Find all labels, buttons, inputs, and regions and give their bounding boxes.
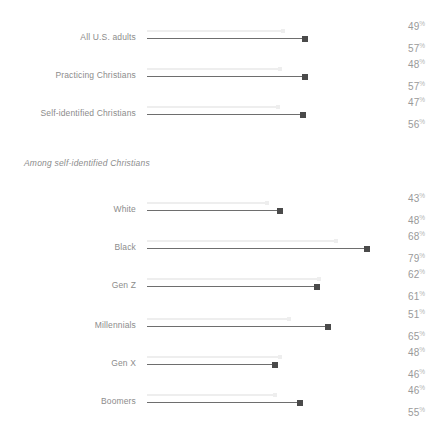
light-series-marker bbox=[334, 239, 338, 243]
row-label: Black bbox=[0, 242, 136, 252]
value-number: 46 bbox=[408, 385, 419, 396]
percent-symbol: % bbox=[419, 290, 425, 297]
dark-series-marker bbox=[314, 284, 320, 290]
percent-symbol: % bbox=[419, 192, 425, 199]
value-number: 61 bbox=[408, 291, 419, 302]
value-number: 55 bbox=[408, 407, 419, 418]
light-series-marker bbox=[278, 67, 282, 71]
value-label-light: 48% bbox=[381, 58, 425, 70]
dark-series-marker bbox=[300, 112, 306, 118]
light-series-line bbox=[147, 356, 280, 358]
value-number: 48 bbox=[408, 347, 419, 358]
row-label: White bbox=[0, 204, 136, 214]
dark-series-marker bbox=[325, 324, 331, 330]
value-label-dark: 57% bbox=[381, 42, 425, 54]
value-number: 56 bbox=[408, 119, 419, 130]
group-subtitle: Among self-identified Christians bbox=[24, 158, 150, 168]
value-label-light: 46% bbox=[381, 384, 425, 396]
percent-symbol: % bbox=[419, 368, 425, 375]
light-series-line bbox=[147, 240, 336, 242]
chart-row: Gen Z62%61% bbox=[0, 266, 431, 306]
value-number: 43 bbox=[408, 193, 419, 204]
dark-series-marker bbox=[302, 74, 308, 80]
value-number: 46 bbox=[408, 369, 419, 380]
value-number: 57 bbox=[408, 81, 419, 92]
percent-symbol: % bbox=[419, 58, 425, 65]
chart-row: Boomers46%55% bbox=[0, 382, 431, 422]
light-series-line bbox=[147, 202, 267, 204]
light-series-marker bbox=[281, 29, 285, 33]
percent-symbol: % bbox=[419, 330, 425, 337]
dark-series-line bbox=[147, 114, 303, 115]
percent-symbol: % bbox=[419, 118, 425, 125]
light-series-line bbox=[147, 318, 289, 320]
light-series-marker bbox=[278, 355, 282, 359]
dark-series-line bbox=[147, 76, 305, 77]
light-series-marker bbox=[273, 393, 277, 397]
light-series-line bbox=[147, 394, 275, 396]
percent-symbol: % bbox=[419, 42, 425, 49]
percent-symbol: % bbox=[419, 80, 425, 87]
dark-series-line bbox=[147, 286, 317, 287]
percent-symbol: % bbox=[419, 230, 425, 237]
value-number: 47 bbox=[408, 97, 419, 108]
value-number: 57 bbox=[408, 43, 419, 54]
value-label-dark: 55% bbox=[381, 406, 425, 418]
chart-row: Millennials51%65% bbox=[0, 306, 431, 346]
value-number: 62 bbox=[408, 269, 419, 280]
chart-row: Gen X48%46% bbox=[0, 344, 431, 384]
percent-symbol: % bbox=[419, 20, 425, 27]
light-series-marker bbox=[317, 277, 321, 281]
value-label-dark: 79% bbox=[381, 252, 425, 264]
percent-symbol: % bbox=[419, 346, 425, 353]
value-label-dark: 46% bbox=[381, 368, 425, 380]
dark-series-marker bbox=[277, 208, 283, 214]
row-label: Gen Z bbox=[0, 280, 136, 290]
percent-symbol: % bbox=[419, 96, 425, 103]
value-number: 65 bbox=[408, 331, 419, 342]
value-label-dark: 57% bbox=[381, 80, 425, 92]
row-label: Gen X bbox=[0, 358, 136, 368]
value-label-light: 48% bbox=[381, 346, 425, 358]
value-number: 48 bbox=[408, 215, 419, 226]
chart-row: White43%48% bbox=[0, 190, 431, 230]
light-series-marker bbox=[276, 105, 280, 109]
dark-series-line bbox=[147, 38, 305, 39]
row-label: All U.S. adults bbox=[0, 32, 136, 42]
percent-symbol: % bbox=[419, 252, 425, 259]
chart-row: Self-identified Christians47%56% bbox=[0, 94, 431, 134]
value-number: 79 bbox=[408, 253, 419, 264]
chart-row: Black68%79% bbox=[0, 228, 431, 268]
value-label-dark: 61% bbox=[381, 290, 425, 302]
light-series-line bbox=[147, 278, 319, 280]
value-label-light: 49% bbox=[381, 20, 425, 32]
value-label-light: 43% bbox=[381, 192, 425, 204]
dark-series-line bbox=[147, 210, 280, 211]
value-number: 68 bbox=[408, 231, 419, 242]
value-label-dark: 56% bbox=[381, 118, 425, 130]
dark-series-marker bbox=[272, 362, 278, 368]
value-label-light: 68% bbox=[381, 230, 425, 242]
percent-symbol: % bbox=[419, 384, 425, 391]
row-label: Self-identified Christians bbox=[0, 108, 136, 118]
chart-row: All U.S. adults49%57% bbox=[0, 18, 431, 58]
chart-container: All U.S. adults49%57%Practicing Christia… bbox=[0, 0, 431, 431]
dark-series-marker bbox=[297, 400, 303, 406]
light-series-line bbox=[147, 30, 283, 32]
light-series-line bbox=[147, 68, 280, 70]
percent-symbol: % bbox=[419, 406, 425, 413]
dark-series-marker bbox=[364, 246, 370, 252]
dark-series-line bbox=[147, 364, 275, 365]
light-series-marker bbox=[265, 201, 269, 205]
row-label: Practicing Christians bbox=[0, 70, 136, 80]
row-label: Millennials bbox=[0, 320, 136, 330]
light-series-line bbox=[147, 106, 278, 108]
value-number: 51 bbox=[408, 309, 419, 320]
percent-symbol: % bbox=[419, 308, 425, 315]
value-label-light: 47% bbox=[381, 96, 425, 108]
dark-series-marker bbox=[302, 36, 308, 42]
chart-row: Practicing Christians48%57% bbox=[0, 56, 431, 96]
value-label-light: 62% bbox=[381, 268, 425, 280]
dark-series-line bbox=[147, 326, 328, 327]
value-label-dark: 65% bbox=[381, 330, 425, 342]
